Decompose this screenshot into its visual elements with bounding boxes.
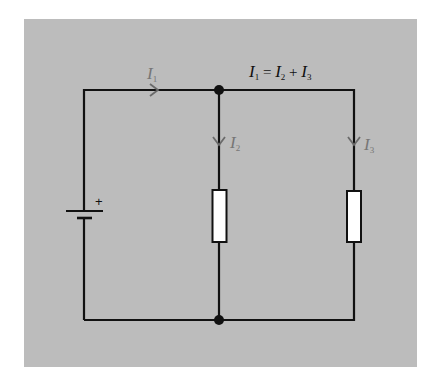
junction-top-dot: [214, 85, 224, 95]
current-label-i3: I3: [363, 135, 375, 155]
kirchhoff-equation: I1 = I2 + I3: [248, 62, 312, 82]
battery-icon: [66, 211, 103, 218]
battery-plus-label: +: [95, 194, 103, 209]
current-label-i1: I1: [146, 64, 157, 84]
current-label-i2: I2: [229, 133, 240, 153]
resistor-icon-r3: [347, 191, 361, 242]
circuit-diagram: + I1 I2 I3 I1 = I2 + I3: [0, 0, 439, 373]
resistor-icon-r2: [213, 190, 227, 242]
junction-bottom-dot: [214, 315, 224, 325]
